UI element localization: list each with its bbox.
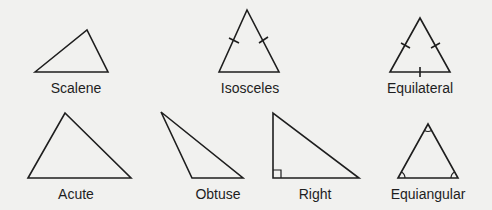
isosceles-triangle: [219, 10, 279, 72]
right-triangle: [273, 113, 359, 178]
equilateral-triangle: [390, 18, 450, 77]
equilateral-label: Equilateral: [387, 80, 453, 96]
acute-label: Acute: [58, 186, 94, 202]
equal-angle-arc: [451, 172, 455, 178]
obtuse-label: Obtuse: [195, 186, 240, 202]
triangle-types-diagram: [0, 0, 492, 210]
isosceles-label: Isosceles: [221, 80, 279, 96]
equiangular-triangle: [398, 124, 458, 178]
acute-triangle: [28, 113, 131, 178]
scalene-triangle: [35, 30, 108, 72]
equal-angle-arc: [425, 131, 432, 132]
right-label: Right: [299, 186, 332, 202]
equiangular-label: Equiangular: [391, 186, 466, 202]
equal-angle-arc: [402, 172, 406, 178]
obtuse-triangle: [161, 112, 243, 178]
right-angle-mark: [273, 170, 281, 178]
scalene-label: Scalene: [51, 80, 102, 96]
